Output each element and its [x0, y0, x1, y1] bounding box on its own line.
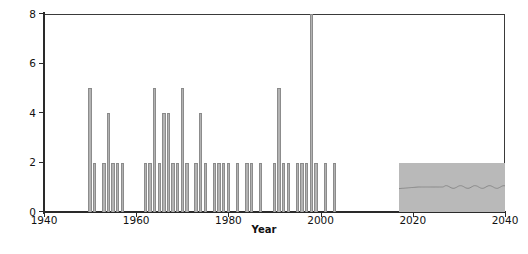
- bar: [116, 163, 119, 213]
- bar: [250, 163, 253, 213]
- bar: [310, 14, 313, 212]
- bar: [245, 163, 248, 213]
- bar: [282, 163, 285, 213]
- y-tick: [39, 162, 44, 163]
- bar: [111, 163, 114, 213]
- x-axis-title: Year: [0, 224, 528, 235]
- chart-figure: 8 6 4 2 0 Number of interstate war onset…: [0, 0, 528, 254]
- plot-area: [44, 14, 505, 212]
- bar: [194, 163, 197, 213]
- bar: [88, 88, 91, 212]
- bar: [314, 163, 317, 213]
- bar: [176, 163, 179, 213]
- forecast-shaded-region: [399, 163, 505, 213]
- bar: [259, 163, 262, 213]
- bar: [324, 163, 327, 213]
- bar: [287, 163, 290, 213]
- y-tick-label-6: 6: [10, 58, 36, 69]
- bar: [305, 163, 308, 213]
- bar: [93, 163, 96, 213]
- bar: [333, 163, 336, 213]
- bar: [102, 163, 105, 213]
- bar: [217, 163, 220, 213]
- y-tick-label-2: 2: [10, 157, 36, 168]
- y-tick-label-4: 4: [10, 108, 36, 119]
- bar: [153, 88, 156, 212]
- bar: [121, 163, 124, 213]
- bar: [273, 163, 276, 213]
- bar: [300, 163, 303, 213]
- bar: [162, 113, 165, 212]
- y-tick: [39, 63, 44, 64]
- bar: [107, 113, 110, 212]
- bar: [148, 163, 151, 213]
- y-axis-labels: 8 6 4 2 0: [0, 0, 40, 198]
- bar: [167, 113, 170, 212]
- forecast-trend-line: [399, 180, 505, 194]
- bar: [227, 163, 230, 213]
- axis-left-spine: [43, 12, 45, 214]
- bar: [171, 163, 174, 213]
- bar: [158, 163, 161, 213]
- bar: [296, 163, 299, 213]
- axis-top-spine: [44, 14, 505, 15]
- y-tick: [39, 13, 44, 14]
- bar: [222, 163, 225, 213]
- bar: [277, 88, 280, 212]
- bar: [199, 113, 202, 212]
- bar: [185, 163, 188, 213]
- bar: [181, 88, 184, 212]
- y-tick-label-8: 8: [10, 9, 36, 20]
- bar: [236, 163, 239, 213]
- bar: [213, 163, 216, 213]
- bar: [204, 163, 207, 213]
- bar: [144, 163, 147, 213]
- y-tick: [39, 112, 44, 113]
